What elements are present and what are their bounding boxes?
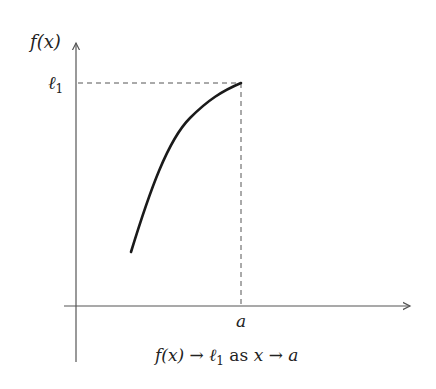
x-point-label: a xyxy=(236,311,246,331)
function-curve xyxy=(131,83,241,252)
limit-diagram: f(x) ℓ1 a f(x) → ℓ1 as x → a xyxy=(0,0,436,389)
y-axis-label: f(x) xyxy=(28,31,61,52)
limit-label: ℓ1 xyxy=(48,72,63,96)
caption: f(x) → ℓ1 as x → a xyxy=(153,345,298,369)
